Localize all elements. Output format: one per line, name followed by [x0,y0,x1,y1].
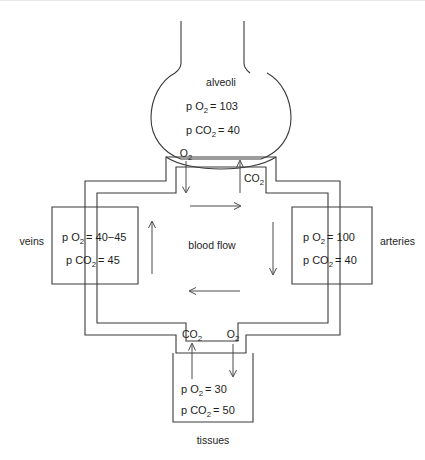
arteries-pco2: p CO2= 40 [303,254,357,269]
veins-po2: p O2= 40−45 [62,231,126,246]
veins-pco2: p CO2= 45 [66,254,120,269]
alveoli-organ [151,21,291,169]
vessel-outer-wall [85,157,340,353]
gas-exchange-diagram: alveoli p O2= 103 p CO2= 40 O2 CO2 veins… [0,0,425,460]
blood-flow-label: blood flow [188,239,236,251]
tissues-pco2: p CO2= 50 [181,404,235,419]
alveoli-o2-label: O2 [180,147,193,162]
tissues-label: tissues [197,434,230,446]
diagram-canvas: alveoli p O2= 103 p CO2= 40 O2 CO2 veins… [0,1,425,460]
vessel-inner-wall [97,167,328,341]
arteries-box [292,207,372,284]
blood-flow-arrow-bottom [189,288,240,295]
tissues-po2: p O2= 30 [181,383,227,398]
tissues-co2-arrow-up [189,343,196,379]
arteries-label: arteries [380,235,415,247]
veins-label: veins [19,235,44,247]
arteries-box-outline [292,207,372,284]
blood-flow-arrow-right [270,222,277,275]
veins-box-outline [52,207,138,284]
alveoli-label: alveoli [206,76,236,88]
blood-flow-arrow-top [190,203,241,210]
arteries-po2: p O2= 100 [303,231,355,246]
alveoli-pco2: p CO2= 40 [186,124,240,139]
bronchiole-right-wall [244,21,250,73]
tissues-o2-arrow-down [230,344,237,377]
alveoli-co2-arrow-up [237,160,244,193]
veins-box [52,207,138,284]
blood-flow-arrow-left [149,221,156,274]
alveoli-co2-label: CO2 [244,172,264,187]
bronchiole-left-wall [175,21,181,73]
alveoli-po2: p O2= 103 [186,100,238,115]
